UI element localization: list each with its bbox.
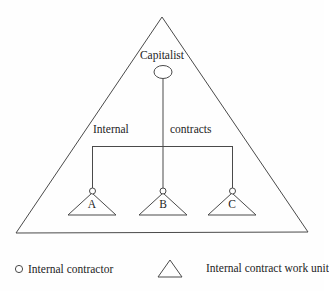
work-unit-label-a: A — [72, 199, 112, 211]
internal-contracts-label-left: Internal — [93, 124, 129, 136]
capitalist-label: Capitalist — [0, 50, 324, 62]
capitalist-ellipse-icon — [154, 66, 172, 79]
legend-circle-icon — [15, 265, 22, 272]
contractor-circle-icon-c — [230, 188, 236, 194]
legend-triangle-icon — [158, 260, 182, 277]
contractor-circle-icon-b — [160, 188, 166, 194]
legend-label-internal-contract-work-unit: Internal contract work unit — [206, 263, 329, 275]
work-unit-label-b: B — [143, 199, 183, 211]
work-unit-label-c: C — [212, 199, 252, 211]
internal-contracts-label-right: contracts — [170, 124, 212, 136]
legend-label-internal-contractor: Internal contractor — [28, 264, 113, 276]
contractor-circle-icon-a — [90, 188, 96, 194]
